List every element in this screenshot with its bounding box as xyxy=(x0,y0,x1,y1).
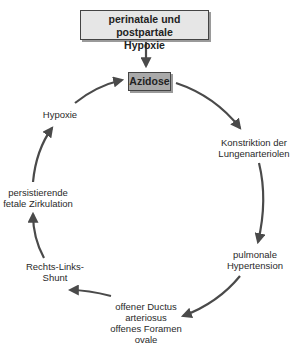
arrow-ductus-to-shunt xyxy=(70,290,111,296)
arrow-zirkulation-to-hypoxie xyxy=(33,128,52,182)
node-hypertension: pulmonale Hypertension xyxy=(220,249,290,271)
arrow-hypoxie-cycle-to-azidose xyxy=(75,80,122,103)
node-ductus: offener Ductus arteriosus offenes Forame… xyxy=(110,301,182,345)
node-hypoxie: Hypoxie xyxy=(40,109,80,120)
node-konstriktion-line2: Lungenarteriolen xyxy=(214,148,294,159)
title-box-line2: Hypoxie xyxy=(81,39,208,52)
arrow-azidose-to-konstriktion xyxy=(176,83,240,128)
node-hypoxie-line1: Hypoxie xyxy=(40,109,80,120)
node-shunt: Rechts-Links- Shunt xyxy=(22,261,88,283)
node-zirkulation-line2: fetale Zirkulation xyxy=(0,198,76,209)
title-box-line1: perinatale und postpartale xyxy=(81,13,208,39)
perinatal-hypoxia-box: perinatale und postpartale Hypoxie xyxy=(80,10,209,40)
arrow-shunt-to-zirkulation xyxy=(33,214,44,258)
node-hypertension-line2: Hypertension xyxy=(220,260,290,271)
arrow-hypertension-to-ductus xyxy=(183,276,240,316)
node-shunt-line2: Shunt xyxy=(22,272,88,283)
node-konstriktion: Konstriktion der Lungenarteriolen xyxy=(214,137,294,159)
node-ductus-line4: ovale xyxy=(110,334,182,345)
azidose-label: Azidose xyxy=(129,75,169,87)
node-konstriktion-line1: Konstriktion der xyxy=(214,137,294,148)
node-ductus-line3: offenes Foramen xyxy=(110,323,182,334)
node-zirkulation: persistierende fetale Zirkulation xyxy=(0,187,76,209)
node-ductus-line2: arteriosus xyxy=(110,312,182,323)
azidose-box: Azidose xyxy=(128,72,171,91)
node-hypertension-line1: pulmonale xyxy=(220,249,290,260)
node-shunt-line1: Rechts-Links- xyxy=(22,261,88,272)
arrow-konstriktion-to-hypertension xyxy=(258,163,263,242)
node-zirkulation-line1: persistierende xyxy=(0,187,76,198)
node-ductus-line1: offener Ductus xyxy=(110,301,182,312)
